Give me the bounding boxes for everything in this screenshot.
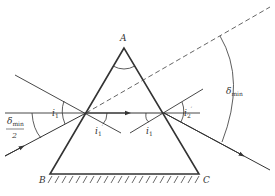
- svg-text:2: 2: [11, 131, 17, 140]
- apex-angle-arc: [113, 66, 135, 69]
- incident-ray-extension-dashed: [86, 7, 270, 113]
- i1-internal-arc: [146, 113, 149, 122]
- i1-arc: [62, 101, 65, 124]
- vertex-label-a: A: [119, 33, 127, 43]
- label-i1-internal: i1: [146, 126, 153, 137]
- ground-hatching: [48, 176, 199, 183]
- left-surface-normal: [15, 75, 121, 133]
- label-i2-prime: i2′: [184, 105, 193, 119]
- half-delta-arc: [32, 113, 41, 138]
- prism-minimum-deviation-diagram: A B C i1 i1′ i1 i2′ δmin δmin 2: [0, 0, 275, 196]
- label-i1-incident: i1: [52, 108, 59, 119]
- incident-ray-arrow: [5, 147, 22, 156]
- vertex-label-c: C: [203, 175, 210, 185]
- label-half-delta-min: δmin 2: [6, 116, 24, 140]
- prism-triangle: [50, 48, 199, 174]
- i1-prime-arc: [103, 113, 107, 124]
- label-delta-min: δmin: [226, 86, 243, 97]
- svg-text:δmin: δmin: [7, 116, 24, 127]
- label-i1-prime: i1′: [95, 123, 104, 137]
- vertex-label-b: B: [38, 175, 46, 185]
